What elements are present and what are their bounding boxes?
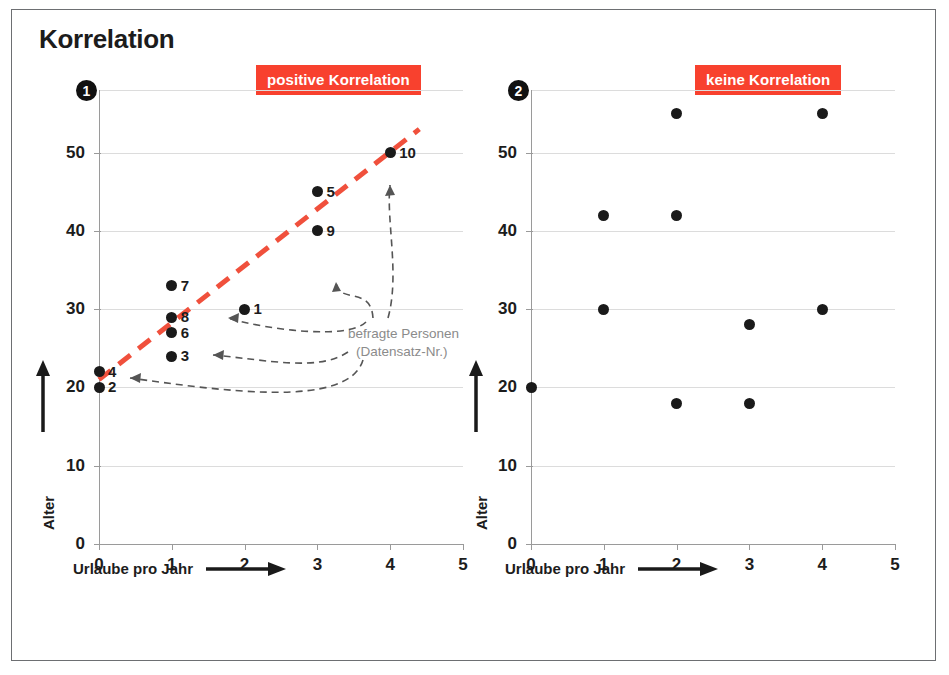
gridline bbox=[531, 387, 895, 388]
panel-number-badge-1: 1 bbox=[76, 80, 97, 101]
y-axis-tick bbox=[526, 153, 533, 154]
y-axis-tick-label: 40 bbox=[51, 221, 85, 241]
gridline bbox=[531, 231, 895, 232]
y-axis-tick-label: 0 bbox=[51, 534, 85, 554]
y-axis-title-2: Alter bbox=[473, 496, 490, 530]
data-point bbox=[671, 108, 682, 119]
data-point-label: 2 bbox=[108, 378, 116, 395]
data-point bbox=[744, 319, 755, 330]
y-axis-tick-label: 30 bbox=[483, 299, 517, 319]
data-point bbox=[598, 304, 609, 315]
data-point bbox=[671, 398, 682, 409]
trend-line bbox=[18, 60, 488, 580]
annotation-leader-lines bbox=[18, 60, 488, 480]
gridline bbox=[99, 309, 463, 310]
x-axis-tick bbox=[749, 544, 750, 550]
data-point bbox=[526, 382, 537, 393]
y-axis-tick bbox=[526, 309, 533, 310]
x-axis-tick bbox=[531, 544, 532, 550]
y-axis-tick bbox=[526, 466, 533, 467]
y-axis-tick bbox=[94, 309, 101, 310]
annotation-text-line1: befragte Personen bbox=[348, 325, 459, 343]
data-point bbox=[312, 186, 323, 197]
x-axis-tick-label: 5 bbox=[883, 555, 907, 575]
x-axis-tick-label: 2 bbox=[233, 555, 257, 575]
y-axis-title-1: Alter bbox=[40, 496, 57, 530]
data-point bbox=[817, 304, 828, 315]
x-axis-tick bbox=[822, 544, 823, 550]
annotation-text-line2: (Datensatz-Nr.) bbox=[356, 343, 448, 361]
data-point bbox=[239, 304, 250, 315]
y-axis-tick-label: 20 bbox=[51, 377, 85, 397]
x-axis-tick bbox=[677, 544, 678, 550]
data-point-label: 4 bbox=[108, 363, 116, 380]
y-axis-tick-label: 50 bbox=[483, 143, 517, 163]
data-point bbox=[817, 108, 828, 119]
panel-positive-correlation: 1 positive Korrelation 01020304050012345… bbox=[18, 60, 488, 620]
data-point bbox=[744, 398, 755, 409]
data-point-label: 1 bbox=[254, 300, 262, 317]
data-point-label: 8 bbox=[181, 308, 189, 325]
y-axis-tick-label: 10 bbox=[483, 456, 517, 476]
y-axis-line bbox=[99, 90, 100, 544]
x-axis-tick-label: 2 bbox=[665, 555, 689, 575]
y-axis-tick bbox=[94, 153, 101, 154]
y-axis-tick-label: 10 bbox=[51, 456, 85, 476]
data-point-label: 7 bbox=[181, 277, 189, 294]
gridline-top bbox=[531, 90, 895, 91]
x-axis-title-1: Urlaube pro Jahr bbox=[73, 560, 193, 577]
x-axis-tick bbox=[172, 544, 173, 550]
data-point-label: 9 bbox=[326, 222, 334, 239]
data-point-label: 5 bbox=[326, 183, 334, 200]
y-axis-tick-label: 0 bbox=[483, 534, 517, 554]
x-axis-tick bbox=[99, 544, 100, 550]
data-point bbox=[671, 210, 682, 221]
panel-no-correlation: 2 keine Korrelation 01020304050012345 Ur… bbox=[470, 60, 940, 620]
y-axis-tick-label: 40 bbox=[483, 221, 517, 241]
x-axis-line bbox=[99, 544, 463, 545]
data-point-label: 6 bbox=[181, 324, 189, 341]
x-axis-tick-label: 4 bbox=[810, 555, 834, 575]
x-axis-tick bbox=[390, 544, 391, 550]
data-point bbox=[385, 147, 396, 158]
y-axis-tick-label: 30 bbox=[51, 299, 85, 319]
y-axis-tick bbox=[94, 231, 101, 232]
y-axis-tick-label: 50 bbox=[51, 143, 85, 163]
x-axis-tick bbox=[245, 544, 246, 550]
data-point bbox=[166, 312, 177, 323]
gridline bbox=[99, 466, 463, 467]
data-point bbox=[166, 280, 177, 291]
data-point bbox=[312, 225, 323, 236]
gridline bbox=[531, 466, 895, 467]
y-axis-tick-label: 20 bbox=[483, 377, 517, 397]
x-axis-tick-label: 3 bbox=[305, 555, 329, 575]
y-axis-tick bbox=[526, 231, 533, 232]
x-axis-tick-label: 3 bbox=[737, 555, 761, 575]
gridline bbox=[531, 153, 895, 154]
x-axis-tick bbox=[604, 544, 605, 550]
data-point bbox=[94, 366, 105, 377]
x-axis-tick bbox=[895, 544, 896, 550]
gridline bbox=[531, 309, 895, 310]
gridline-top bbox=[99, 90, 463, 91]
x-axis-tick bbox=[317, 544, 318, 550]
y-axis-arrow-2 bbox=[467, 360, 487, 440]
page-title: Korrelation bbox=[39, 24, 174, 55]
x-axis-tick bbox=[463, 544, 464, 550]
y-axis-tick bbox=[94, 466, 101, 467]
data-point-label: 10 bbox=[399, 144, 416, 161]
y-axis-line bbox=[531, 90, 532, 544]
x-axis-tick-label: 4 bbox=[378, 555, 402, 575]
data-point-label: 3 bbox=[181, 347, 189, 364]
x-axis-title-2: Urlaube pro Jahr bbox=[505, 560, 625, 577]
data-point bbox=[94, 382, 105, 393]
y-axis-arrow-1 bbox=[34, 360, 54, 440]
gridline bbox=[99, 231, 463, 232]
data-point bbox=[166, 327, 177, 338]
x-axis-line bbox=[531, 544, 895, 545]
data-point bbox=[166, 351, 177, 362]
panel-number-badge-2: 2 bbox=[508, 80, 529, 101]
data-point bbox=[598, 210, 609, 221]
gridline bbox=[99, 387, 463, 388]
